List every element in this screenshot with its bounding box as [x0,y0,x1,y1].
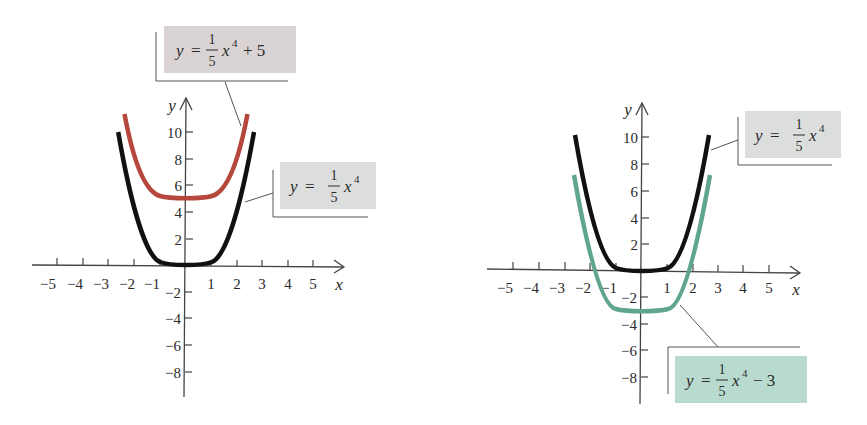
x-tick-label: 5 [309,276,317,292]
x-tick-label: −3 [549,280,565,296]
leader-line [680,305,718,347]
y-tick-label: 4 [631,211,639,227]
eq-exponent: 4 [354,173,360,185]
eq-x: x [343,177,352,196]
y-tick-label: −4 [621,317,637,333]
eq-y: y [288,177,298,196]
y-tick-label: −6 [165,338,181,354]
y-ticks [641,137,649,377]
label-box [164,26,296,73]
eq-constant: − 3 [753,371,775,390]
y-tick-label: 8 [175,152,183,168]
figure: −5 −4 −3 −2 −1 1 2 3 4 5 x y 10 8 [0,0,867,425]
y-tick-label: −2 [165,285,181,301]
leader-line [225,82,241,126]
y-tick-label: 2 [631,237,639,253]
y-axis-label: y [622,100,632,119]
eq-numerator: 1 [719,362,726,377]
y-tick-labels: 10 8 6 4 2 −2 −4 −6 −8 [621,130,638,386]
y-axis [184,98,186,397]
eq-numerator: 1 [331,168,338,183]
eq-exponent: 4 [742,367,748,379]
eq-exponent: 4 [232,37,238,49]
x-tick-label: 2 [233,276,241,292]
x-tick-label: −2 [575,280,591,296]
annotation-base-right: y = 1 5 x 4 [711,111,841,165]
eq-equals: = [305,177,315,196]
leader-line [711,140,738,150]
x-tick-label: 1 [663,280,671,296]
y-tick-label: −4 [165,311,181,327]
eq-x: x [731,371,740,390]
eq-denominator: 5 [796,139,803,154]
annotation-shift-up: y = 1 5 x 4 + 5 [156,26,296,126]
y-tick-label: −2 [621,290,637,306]
x-tick-label: 3 [258,276,266,292]
y-tick-label: −6 [621,343,637,359]
x-tick-label: 4 [284,276,292,292]
x-tick-label: 1 [207,276,215,292]
annotation-base-left: y = 1 5 x 4 [245,162,376,217]
eq-equals: = [191,41,201,60]
x-tick-label: 5 [765,280,773,296]
eq-equals: = [770,126,780,145]
eq-x: x [221,41,230,60]
x-axis-label: x [791,280,800,299]
eq-denominator: 5 [331,190,338,205]
label-box [675,356,807,403]
x-tick-label: −2 [119,276,135,292]
y-axis [640,103,642,404]
y-axis-label: y [166,96,176,115]
annotation-shift-down: y = 1 5 x 4 − 3 [668,305,807,403]
eq-numerator: 1 [796,117,803,132]
y-tick-label: 6 [175,178,183,194]
y-tick-label: 10 [167,125,182,141]
y-tick-labels: 10 8 6 4 2 −2 −4 −6 −8 [165,125,182,381]
y-tick-label: −8 [621,370,637,386]
eq-equals: = [701,371,711,390]
eq-numerator: 1 [209,32,216,47]
eq-exponent: 4 [819,122,825,134]
x-tick-label: 4 [739,280,747,296]
x-tick-label: −4 [523,280,539,296]
y-tick-label: 4 [175,205,183,221]
eq-y: y [753,126,763,145]
eq-constant: + 5 [243,41,265,60]
left-chart: −5 −4 −3 −2 −1 1 2 3 4 5 x y 10 8 [32,96,344,397]
eq-denominator: 5 [209,54,216,69]
x-tick-label: −5 [40,276,56,292]
eq-y: y [174,41,184,60]
y-ticks [185,132,193,372]
eq-y: y [684,371,694,390]
eq-x: x [808,126,817,145]
y-tick-label: 2 [175,232,183,248]
y-tick-label: −8 [165,365,181,381]
x-tick-label: −3 [93,276,109,292]
x-tick-label: −5 [497,280,513,296]
y-tick-label: 10 [623,130,638,146]
x-tick-label: −1 [144,276,160,292]
x-axis-label: x [334,275,343,294]
eq-denominator: 5 [719,384,726,399]
y-tick-label: 6 [631,184,639,200]
leader-line [245,193,273,202]
x-tick-label: 3 [714,280,722,296]
y-tick-label: 8 [631,157,639,173]
x-tick-label: −4 [67,276,83,292]
x-tick-label: 2 [689,280,697,296]
